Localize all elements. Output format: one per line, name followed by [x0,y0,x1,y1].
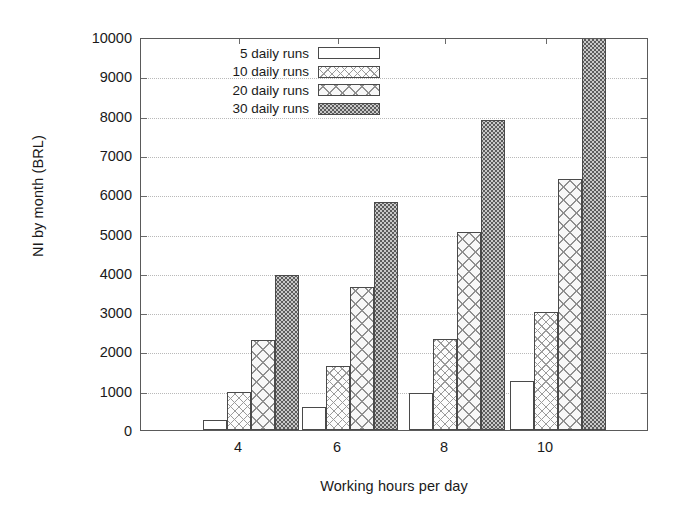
y-tick-label: 0 [66,424,132,439]
x-tick-label: 4 [208,440,268,455]
x-tick-label: 8 [414,440,474,455]
bar [350,287,374,430]
bar [251,340,275,430]
bar [227,392,251,430]
legend-item: 10 daily runs [155,63,380,82]
legend-label: 5 daily runs [240,46,318,61]
x-axis-label: Working hours per day [140,478,648,494]
legend-swatch [318,47,380,59]
bar [457,232,481,430]
y-tick-mark [641,78,647,79]
y-tick-mark [641,157,647,158]
y-tick-label: 2000 [66,345,132,360]
y-tick-mark [641,393,647,394]
y-tick-mark [141,196,147,197]
y-axis-label: NI by month (BRL) [30,96,46,296]
y-tick-label: 8000 [66,109,132,124]
legend: 5 daily runs10 daily runs20 daily runs30… [155,44,380,118]
x-tick-mark [546,39,547,44]
legend-item: 30 daily runs [155,100,380,119]
y-tick-label: 1000 [66,384,132,399]
y-tick-mark [641,196,647,197]
bar [433,339,457,430]
y-tick-mark [141,353,147,354]
y-tick-label: 3000 [66,306,132,321]
gridline [141,157,647,158]
x-tick-mark [445,39,446,44]
bar [326,366,350,430]
bar [374,202,398,430]
y-tick-label: 7000 [66,149,132,164]
y-tick-mark [641,236,647,237]
legend-label: 30 daily runs [232,101,318,116]
bar [534,312,558,430]
y-tick-mark [141,118,147,119]
legend-item: 5 daily runs [155,44,380,63]
y-tick-mark [641,118,647,119]
legend-label: 20 daily runs [232,83,318,98]
y-tick-mark [141,78,147,79]
y-tick-mark [641,314,647,315]
y-tick-label: 4000 [66,267,132,282]
y-tick-mark [141,393,147,394]
bar [275,275,299,430]
bar [510,381,534,430]
y-tick-mark [641,275,647,276]
bar [203,420,227,430]
y-tick-mark [141,275,147,276]
y-tick-label: 9000 [66,70,132,85]
y-tick-label: 5000 [66,227,132,242]
y-tick-mark [141,314,147,315]
legend-swatch [318,103,380,115]
bar [582,38,606,430]
bar-chart: NI by month (BRL) Working hours per day … [0,0,682,517]
y-tick-mark [141,236,147,237]
legend-swatch [318,84,380,96]
x-tick-label: 10 [515,440,575,455]
legend-item: 20 daily runs [155,81,380,100]
y-tick-mark [641,353,647,354]
bar [558,179,582,430]
y-axis-tick-labels: 0100020003000400050006000700080009000100… [62,0,132,517]
bar [481,120,505,430]
x-tick-label: 6 [307,440,367,455]
legend-swatch [318,66,380,78]
legend-label: 10 daily runs [232,64,318,79]
y-tick-label: 6000 [66,188,132,203]
y-tick-label: 10000 [66,31,132,46]
y-tick-mark [141,157,147,158]
bar [409,393,433,430]
bar [302,407,326,430]
